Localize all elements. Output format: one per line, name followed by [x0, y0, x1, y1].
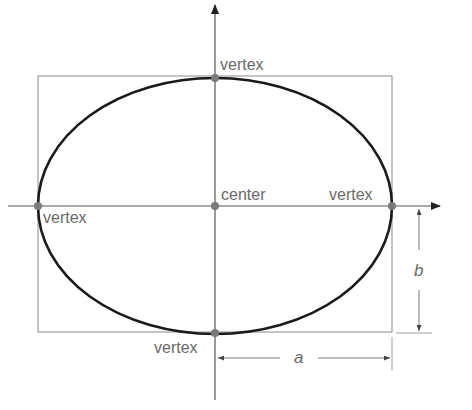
semi-major-label-a: a	[294, 349, 303, 366]
top-vertex-point	[211, 74, 219, 82]
left-vertex-point	[34, 202, 42, 210]
ellipse-diagram: vertex center vertex vertex vertex b a	[0, 0, 472, 410]
right-vertex-point	[388, 202, 396, 210]
right-vertex-label: vertex	[329, 187, 373, 203]
left-vertex-label: vertex	[43, 210, 87, 226]
bottom-vertex-label: vertex	[154, 340, 198, 356]
center-point	[211, 202, 219, 210]
top-vertex-label: vertex	[220, 57, 264, 73]
semi-minor-label-b: b	[414, 262, 423, 279]
center-label: center	[221, 187, 265, 203]
bottom-vertex-point	[211, 329, 219, 337]
